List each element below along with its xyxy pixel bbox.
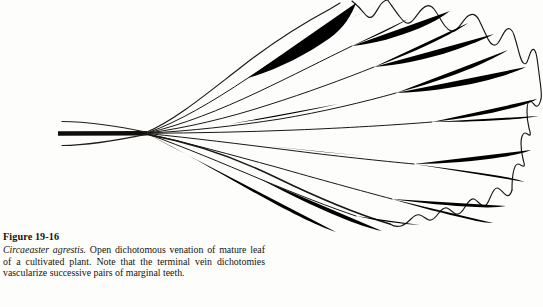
- vein-branch-6a: [414, 150, 531, 164]
- vein-branch-1a: [248, 3, 356, 78]
- leaf-margin-apex-teeth: [352, 0, 388, 17]
- vein-system-group: [148, 3, 538, 232]
- leaf-venation-drawing: [0, 0, 543, 232]
- figure-number-label: Figure 19-16: [3, 231, 265, 244]
- vein-primary-9-basal: [148, 135, 336, 232]
- vein-primary-8: [148, 134, 356, 216]
- petiole-group: [58, 122, 147, 146]
- vein-intercalary-1: [230, 104, 338, 124]
- vein-branch-6b: [414, 164, 525, 182]
- leaf-margin-right-teeth: [512, 99, 541, 190]
- petiole-upper-edge: [62, 122, 147, 133]
- vein-primary-5: [148, 122, 432, 133]
- vein-intercalary-2: [268, 146, 374, 157]
- figure-caption-block: Figure 19-16 Circaeaster agrestis. Open …: [3, 231, 265, 279]
- figure-caption-text: Circaeaster agrestis. Open dichotomous v…: [3, 244, 265, 279]
- figure-illustration-panel: [0, 0, 543, 232]
- vein-branch-5a: [432, 99, 537, 122]
- petiole-lower-edge: [62, 134, 147, 145]
- species-binomial: Circaeaster agrestis.: [3, 244, 86, 255]
- vein-primary-6: [148, 134, 414, 164]
